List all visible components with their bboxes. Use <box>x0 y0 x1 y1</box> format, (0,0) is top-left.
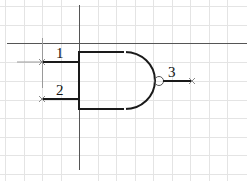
schematic-svg: 1 2 3 <box>0 0 247 181</box>
schematic-canvas[interactable]: 1 2 3 <box>0 0 247 181</box>
arc-join-bottom <box>124 108 126 110</box>
grid <box>0 0 247 181</box>
pin-3-label: 3 <box>168 64 176 80</box>
arc-join-top <box>124 51 126 53</box>
pin-1-label: 1 <box>56 45 64 61</box>
pin-2-label: 2 <box>56 82 64 98</box>
